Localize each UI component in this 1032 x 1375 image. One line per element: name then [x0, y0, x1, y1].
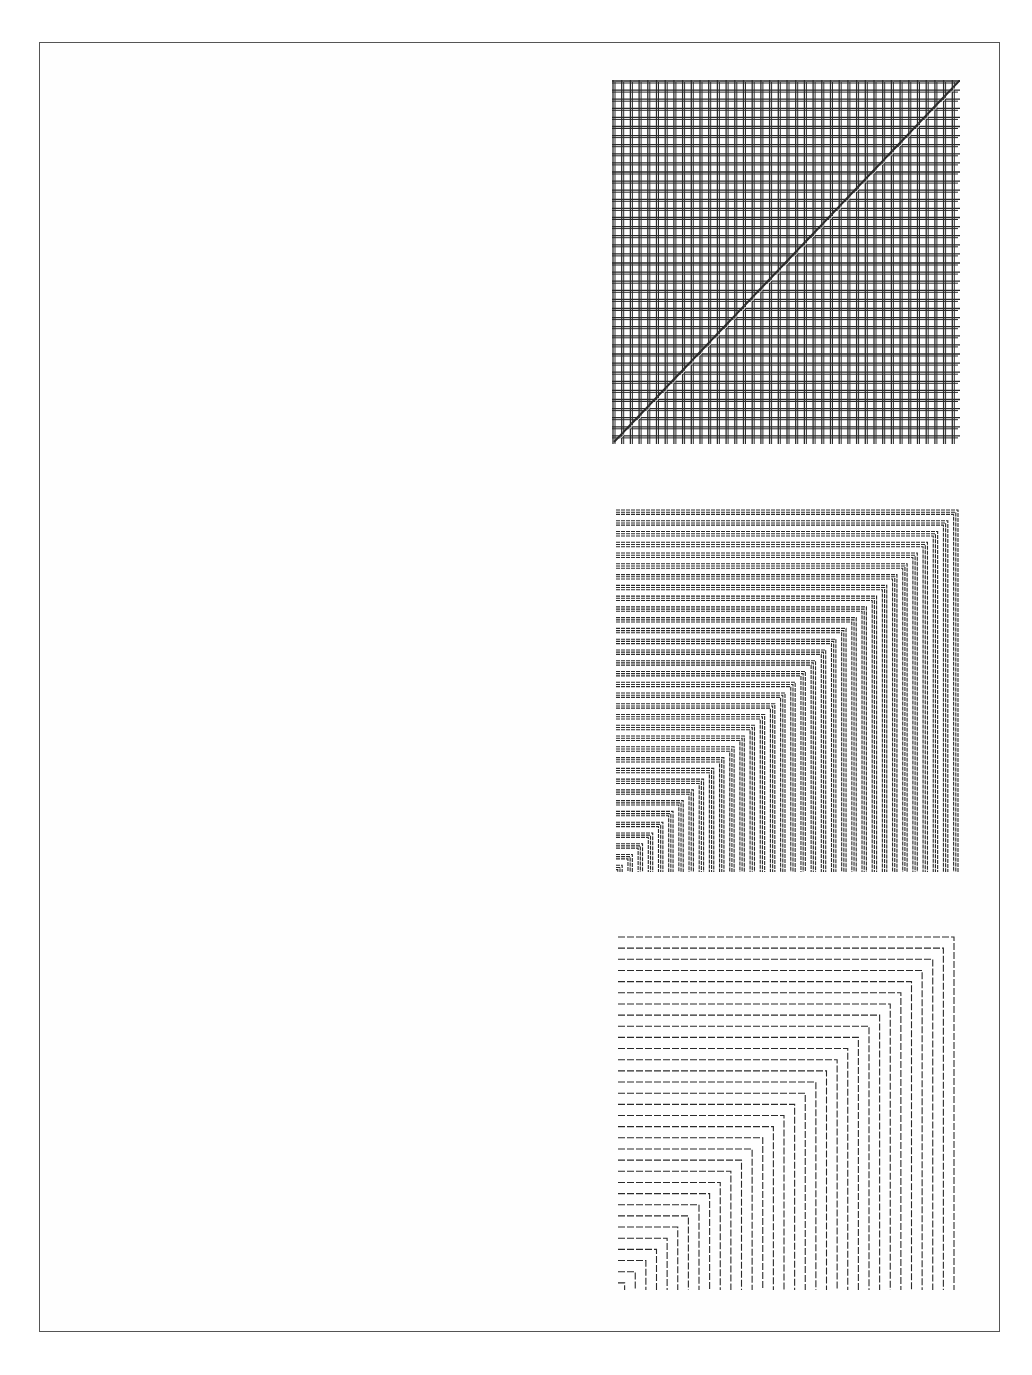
- figure-nested-corners-sparse: [618, 933, 958, 1290]
- figure-grid-with-diagonal: [612, 80, 960, 444]
- figure-nested-corners-dense: [616, 506, 962, 872]
